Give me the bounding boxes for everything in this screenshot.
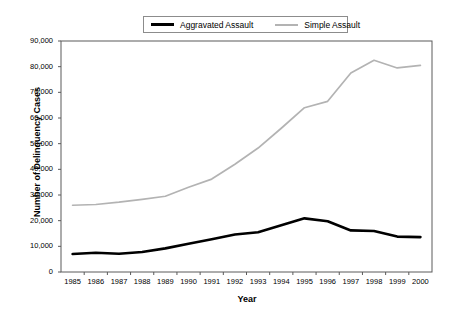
plot-area — [0, 0, 449, 315]
axis-tick-marks — [58, 41, 409, 275]
series-line-simple-assault — [73, 60, 421, 205]
series-layer — [73, 60, 421, 254]
chart-container: Aggravated Assault Simple Assault Number… — [0, 0, 449, 315]
series-line-aggravated-assault — [73, 218, 421, 254]
